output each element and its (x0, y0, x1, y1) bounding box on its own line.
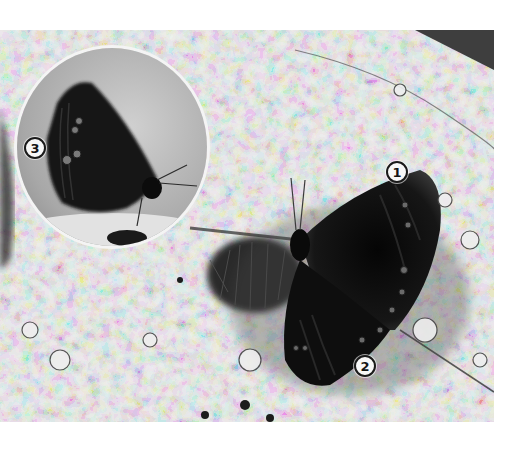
callout-label: 2 (360, 359, 369, 374)
callout-marker-3: 3 (24, 137, 46, 159)
callout-marker-2: 2 (354, 355, 376, 377)
callout-label: 1 (392, 165, 401, 180)
callout-label: 3 (30, 141, 39, 156)
callout-marker-1: 1 (386, 161, 408, 183)
